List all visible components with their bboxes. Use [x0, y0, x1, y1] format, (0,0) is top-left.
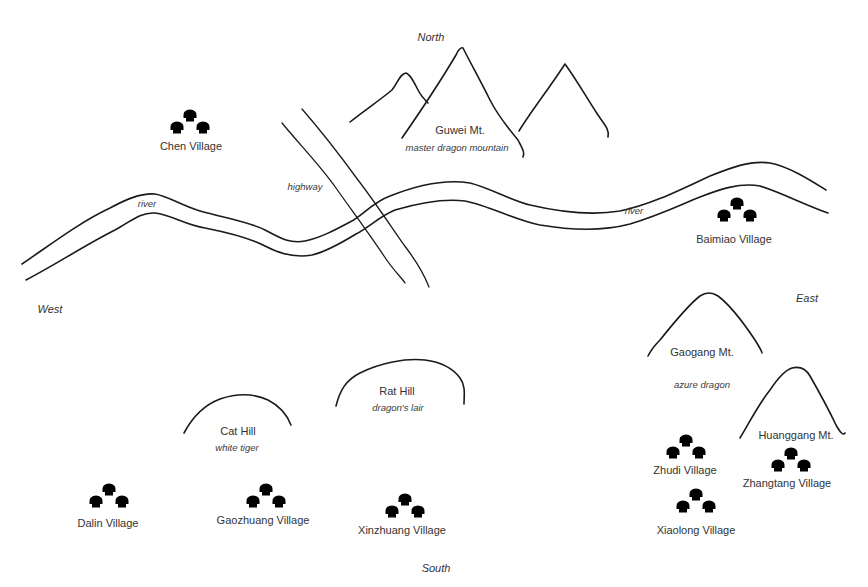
direction-north: North [418, 32, 445, 43]
village-label-xinzhuang: Xinzhuang Village [358, 525, 446, 536]
dalin-village-huts-icon [90, 484, 129, 508]
zhangtang-village-huts-icon [772, 448, 811, 472]
river [22, 162, 828, 280]
rat-hill-subtitle: dragon's lair [372, 403, 423, 413]
baimiao-village-huts-icon [718, 198, 757, 222]
huanggang-mountain-label: Huanggang Mt. [758, 430, 833, 441]
xinzhuang-village-huts-icon [386, 494, 425, 518]
cat-hill-subtitle: white tiger [215, 443, 258, 453]
xiaolong-village-huts-icon [677, 489, 716, 513]
direction-west: West [38, 304, 63, 315]
highway-west-edge [282, 123, 405, 283]
left-peak [350, 73, 428, 122]
village-label-gaozhuang: Gaozhuang Village [217, 515, 310, 526]
village-label-baimiao: Baimiao Village [696, 234, 772, 245]
main-peak [402, 48, 524, 157]
village-label-xiaolong: Xiaolong Village [657, 525, 736, 536]
rat-hill-label: Rat Hill [379, 386, 414, 397]
guwei-mountain-range [350, 48, 608, 157]
gaogang-mountain-label: Gaogang Mt. [670, 347, 734, 358]
highway-label: highway [288, 182, 323, 192]
gaogang-mountain-subtitle: azure dragon [674, 380, 730, 390]
village-label-zhangtang: Zhangtang Village [743, 478, 831, 489]
huanggang-mountain [740, 367, 845, 438]
highway-east-edge [302, 109, 429, 287]
direction-east: East [796, 293, 818, 304]
village-label-zhudi: Zhudi Village [653, 465, 716, 476]
guwei-mountain-label: Guwei Mt. [435, 125, 485, 136]
gaozhuang-village-huts-icon [247, 484, 286, 508]
river-label-east: river [625, 206, 643, 216]
cat-hill-label: Cat Hill [220, 426, 255, 437]
right-peak [519, 64, 608, 137]
guwei-mountain-subtitle: master dragon mountain [406, 143, 509, 153]
village-label-chen: Chen Village [160, 141, 222, 152]
zhudi-village-huts-icon [667, 435, 706, 459]
village-label-dalin: Dalin Village [78, 518, 139, 529]
river-north-bank [22, 162, 826, 264]
rat-hill [336, 360, 464, 406]
village-map [0, 0, 868, 587]
highway [282, 109, 429, 287]
direction-south: South [422, 563, 451, 574]
chen-village-huts-icon [171, 110, 210, 134]
river-label-west: river [138, 199, 156, 209]
